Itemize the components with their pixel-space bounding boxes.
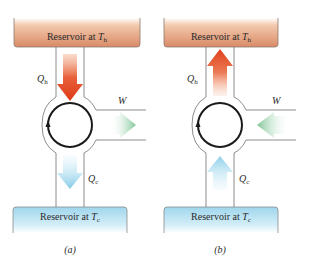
heat-cold-label-b: Qc [239, 173, 249, 186]
caption-b: (b) [214, 244, 226, 256]
heat-engine-diagram: Reservoir at Th Qh W Qc Reservoir at Tc … [0, 0, 310, 261]
work-arrow-a [110, 112, 136, 138]
cycle-arrow-icon-a [46, 120, 51, 127]
cold-reservoir-b: Reservoir at Tc [164, 207, 278, 233]
panel-a: Reservoir at Th Qh W Qc Reservoir at Tc … [13, 18, 146, 256]
caption-a: (a) [64, 244, 76, 256]
work-label-b: W [272, 95, 282, 106]
cold-reservoir-a: Reservoir at Tc [13, 207, 127, 233]
cycle-arrow-icon-b [196, 120, 201, 127]
heat-cold-arrow-a [57, 155, 83, 189]
heat-cold-label-a: Qc [88, 173, 98, 186]
cycle-circle-a [48, 103, 92, 147]
panel-b: Reservoir at Th Qh W Qc Reservoir at Tc … [164, 18, 296, 256]
cycle-circle-b [198, 103, 242, 147]
heat-hot-arrow-a [57, 54, 83, 101]
heat-cold-arrow-b [207, 156, 233, 190]
hot-reservoir-a: Reservoir at Th [14, 18, 140, 47]
heat-hot-arrow-b [207, 49, 233, 96]
heat-hot-label-a: Qh [37, 73, 48, 86]
work-arrow-b [257, 112, 290, 138]
work-label-a: W [118, 95, 128, 106]
heat-hot-label-b: Qh [187, 73, 198, 86]
hot-reservoir-b: Reservoir at Th [164, 18, 278, 47]
